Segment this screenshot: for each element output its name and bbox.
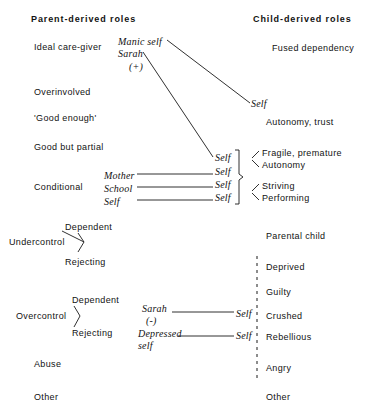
child-role-performing: Performing	[262, 193, 310, 204]
self-marker-sarah-negative: Self	[236, 308, 252, 319]
child-role-guilty: Guilty	[266, 287, 291, 298]
connector-sarah-positive-to-self	[143, 52, 213, 157]
child-role-parental-child: Parental child	[266, 231, 325, 242]
self-marker-depressed-self: Self	[236, 330, 252, 341]
header-parent-derived-roles: Parent-derived roles	[31, 14, 136, 25]
parent-role-abuse: Abuse	[34, 359, 61, 370]
parent-role-good-but-partial: Good but partial	[34, 142, 104, 153]
tick-striving	[252, 184, 259, 191]
overcontrol-branch-rejecting: Rejecting	[72, 328, 113, 339]
annotation-sarah-negative: Sarah	[142, 303, 167, 314]
connector-manic-self-to-self	[167, 40, 250, 103]
child-role-fragile-premature: Fragile, premature	[262, 148, 342, 159]
connector-overlay	[0, 0, 366, 415]
undercontrol-branch-dependent: Dependent	[65, 222, 112, 233]
undercontrol-branch-rejecting: Rejecting	[65, 257, 106, 268]
overcontrol-branch-dependent: Dependent	[72, 295, 119, 306]
annotation-sarah-positive: Sarah	[118, 48, 143, 59]
conditional-source-self: Self	[104, 196, 120, 207]
self-marker-brace-row-1: Self	[215, 152, 231, 163]
header-child-derived-roles: Child-derived roles	[253, 14, 352, 25]
parent-role-other-left: Other	[34, 392, 58, 403]
child-role-striving: Striving	[262, 181, 295, 192]
self-marker-top-diagonal: Self	[251, 98, 267, 109]
conditional-source-school: School	[104, 183, 132, 194]
child-role-other-right: Other	[266, 392, 290, 403]
fork-overcontrol	[74, 306, 80, 327]
fork-undercontrol	[78, 233, 84, 252]
diagram-canvas: Parent-derived roles Child-derived roles…	[0, 0, 366, 415]
parent-role-undercontrol: Undercontrol	[9, 237, 65, 248]
parent-role-overcontrol: Overcontrol	[16, 311, 66, 322]
child-role-autonomy: Autonomy	[262, 160, 305, 171]
annotation-sarah-negative-sign: (-)	[146, 315, 157, 326]
parent-role-ideal-care-giver: Ideal care-giver	[34, 42, 102, 53]
parent-role-overinvolved: Overinvolved	[34, 87, 91, 98]
tick-performing	[252, 193, 259, 200]
child-role-crushed: Crushed	[266, 311, 302, 322]
tick-autonomy	[252, 160, 259, 167]
grouping-brace	[235, 150, 243, 204]
conditional-source-mother: Mother	[104, 170, 135, 181]
annotation-sarah-positive-sign: (+)	[129, 61, 143, 72]
annotation-depressed-self-line2: self	[138, 340, 153, 351]
child-role-autonomy-trust: Autonomy, trust	[266, 117, 334, 128]
child-role-deprived: Deprived	[266, 262, 305, 273]
self-marker-brace-row-3: Self	[215, 179, 231, 190]
self-marker-brace-row-2: Self	[215, 166, 231, 177]
parent-role-conditional: Conditional	[34, 182, 83, 193]
parent-role-good-enough: 'Good enough'	[34, 113, 97, 124]
tick-fragile-premature	[252, 151, 259, 158]
child-role-fused-dependency: Fused dependency	[272, 43, 354, 54]
annotation-depressed-self-line1: Depressed	[138, 328, 182, 339]
child-role-rebellious: Rebellious	[266, 332, 312, 343]
annotation-manic-self: Manic self	[118, 36, 162, 47]
self-marker-brace-row-4: Self	[215, 192, 231, 203]
child-role-angry: Angry	[266, 363, 291, 374]
